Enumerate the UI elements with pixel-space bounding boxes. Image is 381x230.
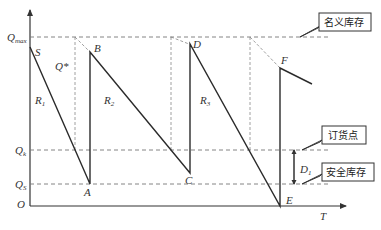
point-f: F (280, 54, 288, 66)
guide-3-diagonal (250, 37, 280, 68)
svg-text:订货点: 订货点 (328, 129, 358, 141)
qk-label: Qk (15, 144, 27, 158)
point-a: A (83, 186, 91, 198)
rate-r3: R3 (199, 94, 211, 108)
origin-label: O (17, 198, 25, 210)
qs-label: QS (15, 178, 27, 192)
point-e: E (285, 194, 293, 206)
order-quantity-label: Q* (55, 60, 69, 72)
svg-text:名义库存: 名义库存 (324, 16, 364, 28)
callout-nominal-inventory: 名义库存 (300, 13, 371, 37)
point-c: C (185, 174, 193, 186)
svg-text:安全库存: 安全库存 (326, 166, 366, 178)
rate-r2: R2 (103, 94, 115, 108)
callout-safety-stock: 安全库存 (302, 163, 374, 184)
qmax-label: Qmax (7, 31, 28, 45)
safety-band-label: D1 (299, 163, 311, 177)
guide-1-diagonal (75, 37, 90, 52)
point-s: S (35, 46, 41, 58)
inventory-diagram: Qmax Qk QS O T S A B C D E F R1 R2 R3 Q*… (0, 0, 381, 230)
point-d: D (192, 38, 201, 50)
callout-reorder-point: 订货点 (302, 126, 366, 150)
point-b: B (94, 42, 101, 54)
rate-r1: R1 (34, 94, 45, 108)
guide-2-diagonal (171, 37, 189, 44)
x-axis-label: T (320, 210, 327, 222)
